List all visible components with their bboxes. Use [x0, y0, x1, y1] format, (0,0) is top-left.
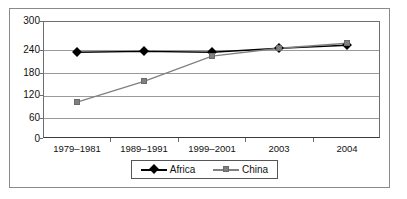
- data-point-china-0: [74, 99, 80, 105]
- square-marker-icon: [213, 165, 239, 174]
- x-tick-mark-2: [178, 138, 179, 142]
- legend-item-china[interactable]: China: [213, 165, 268, 175]
- data-point-china-1: [141, 78, 147, 84]
- data-point-china-3: [276, 45, 282, 51]
- chart-figure: 300 240 180 120 60 0 1979–1981 1989–1991…: [0, 0, 407, 199]
- x-tick-label-2004: 2004: [336, 143, 357, 154]
- x-tick-mark-1: [110, 138, 111, 142]
- chart-legend: Africa China: [131, 160, 278, 179]
- x-tick-label-2003: 2003: [268, 143, 289, 154]
- legend-label-china: China: [242, 165, 268, 175]
- x-tick-label-1999-2001: 1999–2001: [188, 143, 236, 154]
- legend-label-africa: Africa: [170, 165, 196, 175]
- legend-item-africa[interactable]: Africa: [141, 165, 196, 175]
- data-point-china-4: [344, 40, 350, 46]
- x-tick-label-1989-1991: 1989–1991: [120, 143, 168, 154]
- x-tick-mark-3: [245, 138, 246, 142]
- x-tick-mark-4: [313, 138, 314, 142]
- x-tick-label-1979-1981: 1979–1981: [53, 143, 101, 154]
- diamond-marker-icon: [141, 165, 167, 174]
- data-point-china-2: [209, 53, 215, 59]
